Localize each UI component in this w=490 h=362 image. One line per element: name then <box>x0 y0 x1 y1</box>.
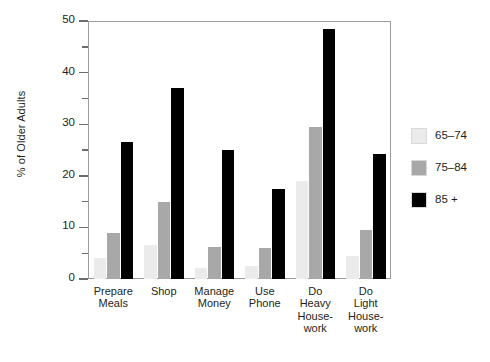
legend-label: 65–74 <box>435 129 467 141</box>
bar <box>360 230 373 279</box>
legend-label: 85 + <box>435 193 458 205</box>
y-tick-label: 20 <box>41 168 75 180</box>
y-tick-label: 0 <box>41 271 75 283</box>
y-tick-label: 50 <box>41 13 75 25</box>
tick-mark <box>79 20 88 21</box>
bar <box>245 266 258 279</box>
bar-chart: % of Older Adults 01020304050 Prepare Me… <box>0 0 490 362</box>
legend-swatch <box>411 128 427 144</box>
plot-area <box>88 21 391 279</box>
bar <box>323 29 336 279</box>
y-tick-label: 10 <box>41 219 75 231</box>
y-tick-label: 40 <box>41 65 75 77</box>
bar <box>272 189 285 279</box>
bar <box>309 127 322 279</box>
legend-swatch <box>411 160 427 176</box>
tick-mark <box>79 227 88 228</box>
bar <box>94 258 107 279</box>
bar <box>107 233 120 279</box>
tick-mark <box>79 72 88 73</box>
tick-mark <box>82 253 88 254</box>
x-tick-label: Do Light House- work <box>333 285 400 335</box>
tick-mark <box>79 278 88 279</box>
bar <box>373 154 386 279</box>
y-axis-title: % of Older Adults <box>15 69 27 199</box>
bar <box>121 142 134 279</box>
bar <box>195 268 208 279</box>
bar <box>208 247 221 279</box>
tick-mark <box>79 175 88 176</box>
tick-mark <box>82 201 88 202</box>
bar <box>296 181 309 279</box>
bar <box>144 245 157 279</box>
bar <box>346 256 359 279</box>
y-tick-label: 30 <box>41 116 75 128</box>
tick-mark <box>82 46 88 47</box>
legend-label: 75–84 <box>435 161 467 173</box>
tick-mark <box>82 98 88 99</box>
legend-swatch <box>411 192 427 208</box>
tick-mark <box>79 124 88 125</box>
tick-mark <box>82 149 88 150</box>
bar <box>171 88 184 279</box>
bar <box>158 202 171 279</box>
bar <box>222 150 235 279</box>
bar <box>259 248 272 279</box>
